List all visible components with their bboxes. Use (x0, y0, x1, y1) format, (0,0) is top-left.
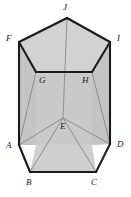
pentagonal-prism-figure: ABCDEFGHIJ (0, 0, 131, 197)
vertex-label-b: B (26, 178, 32, 187)
vertex-label-e: E (60, 122, 66, 131)
vertex-label-f: F (6, 34, 12, 43)
vertex-label-j: J (63, 3, 67, 12)
edge-AB (19, 145, 30, 172)
vertex-label-h: H (82, 76, 89, 85)
edge-CD (96, 144, 110, 172)
vertex-label-d: D (117, 140, 124, 149)
vertex-label-a: A (6, 141, 12, 150)
vertex-label-c: C (91, 178, 97, 187)
vertex-label-i: I (117, 34, 120, 43)
prism-drawing (0, 0, 131, 197)
vertex-label-g: G (39, 76, 46, 85)
